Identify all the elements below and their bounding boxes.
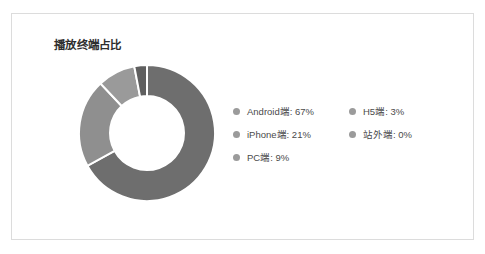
donut-chart-svg [68, 54, 226, 212]
legend-column-1: Android端: 67%iPhone端: 21%PC端: 9% [233, 100, 314, 169]
legend-item-label: H5端: 3% [363, 107, 404, 117]
legend-item-label: PC端: 9% [247, 153, 289, 163]
legend-item[interactable]: H5端: 3% [349, 100, 412, 123]
legend-item[interactable]: Android端: 67% [233, 100, 314, 123]
legend-item[interactable]: 站外端: 0% [349, 123, 412, 146]
legend-dot-icon [349, 108, 356, 115]
legend-dot-icon [233, 154, 240, 161]
legend-item-label: iPhone端: 21% [247, 130, 311, 140]
legend-item[interactable]: PC端: 9% [233, 146, 314, 169]
donut-chart [68, 54, 226, 212]
legend-item[interactable]: iPhone端: 21% [233, 123, 314, 146]
legend-dot-icon [349, 131, 356, 138]
legend-item-label: 站外端: 0% [363, 130, 412, 140]
page-root: 播放终端占比 Android端: 67%iPhone端: 21%PC端: 9% … [0, 0, 485, 254]
legend-column-2: H5端: 3%站外端: 0% [349, 100, 412, 146]
legend-dot-icon [233, 108, 240, 115]
legend-dot-icon [233, 131, 240, 138]
chart-card-panel: 播放终端占比 Android端: 67%iPhone端: 21%PC端: 9% … [11, 13, 474, 240]
legend-item-label: Android端: 67% [247, 107, 314, 117]
chart-legend: Android端: 67%iPhone端: 21%PC端: 9% H5端: 3%… [233, 100, 458, 180]
page-title: 播放终端占比 [54, 36, 122, 52]
